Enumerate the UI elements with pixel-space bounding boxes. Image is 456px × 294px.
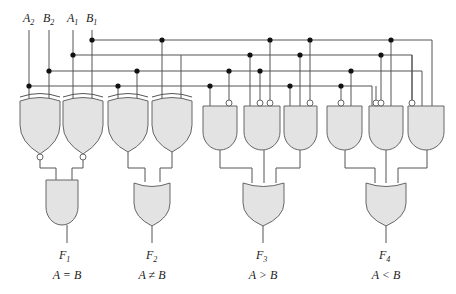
two-bit-comparator-circuit: A2 B2 A1 B1	[0, 0, 456, 294]
xnor-gate-1	[63, 94, 103, 161]
and-gate-4	[327, 106, 362, 150]
and-gate-2	[244, 106, 280, 150]
junction-dots	[26, 37, 393, 88]
or-gate-f2	[134, 183, 170, 226]
and-gate-1	[203, 106, 237, 150]
and-stage-gates	[203, 106, 444, 150]
relation-label-greater: A > B	[248, 268, 278, 282]
and-gate-3	[284, 106, 317, 150]
first-stage-gates	[20, 94, 192, 161]
xor-gate-2	[108, 94, 148, 153]
relation-label-less: A < B	[371, 268, 401, 282]
output-label-f3: F3	[255, 248, 267, 264]
relation-label-not-equal: A ≠ B	[137, 268, 166, 282]
or-gate-f3	[243, 183, 284, 226]
or-gate-f4	[366, 183, 406, 226]
input-label-a1: A1	[66, 11, 78, 27]
xnor-gate-2	[20, 94, 60, 161]
and-gate-f1	[46, 180, 78, 225]
and-gate-5	[369, 106, 403, 150]
input-labels: A2 B2 A1 B1	[22, 11, 97, 27]
output-label-f2: F2	[145, 248, 157, 264]
input-label-a2: A2	[22, 11, 34, 27]
relation-label-equal: A = B	[52, 268, 82, 282]
inversion-bubbles	[226, 100, 415, 106]
output-labels: F1 A = B F2 A ≠ B F3 A > B F4 A < B	[52, 248, 401, 282]
output-label-f4: F4	[378, 248, 390, 264]
input-label-b2: B2	[43, 11, 54, 27]
input-label-b1: B1	[86, 11, 97, 27]
and-gate-6	[408, 106, 444, 150]
xor-gate-1	[152, 94, 192, 153]
output-stage-gates	[46, 180, 406, 226]
output-label-f1: F1	[58, 248, 70, 264]
